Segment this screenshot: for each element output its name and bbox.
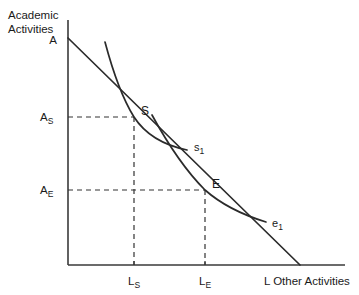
y-value-label-as: AS (40, 111, 54, 126)
point-label-s: S (141, 104, 149, 118)
y-value-label-ae: AE (40, 184, 54, 199)
x-value-label-le: LE (199, 275, 211, 290)
y-axis-label-line2: Activities (8, 23, 54, 35)
budget-constraint-line (68, 38, 300, 265)
indifference-curve-figure: Academic Activities A AS AE LS LE L Othe… (0, 0, 359, 295)
x-value-label-ls: LS (128, 275, 140, 290)
curve-label-e1: e1 (272, 217, 283, 232)
x-axis-label: L Other Activities (264, 275, 350, 287)
point-label-e: E (212, 177, 220, 191)
y-axis-label-line1: Academic (8, 9, 59, 21)
figure-canvas: Academic Activities A AS AE LS LE L Othe… (0, 0, 359, 295)
y-intercept-label-a: A (49, 34, 57, 46)
indifference-curve-s1 (105, 42, 187, 150)
curve-label-s1: s1 (194, 141, 205, 156)
indifference-curve-e1 (152, 115, 266, 222)
